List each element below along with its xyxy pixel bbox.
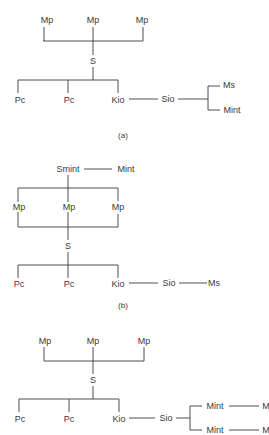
node-mp: Mp	[39, 336, 52, 346]
node-mp: Mp	[87, 15, 100, 25]
node-mp: Mp	[87, 336, 100, 346]
diagram-lines	[0, 0, 269, 435]
node-mp: Mp	[63, 202, 76, 212]
node-mp: Mp	[112, 202, 125, 212]
caption-b: (b)	[118, 301, 128, 310]
caption-a: (a)	[118, 131, 128, 140]
node-pc: Pc	[15, 95, 26, 105]
node-mp: Mp	[13, 202, 26, 212]
node-s: S	[65, 241, 71, 251]
node-mp: Mp	[136, 15, 149, 25]
node-pc: Pc	[64, 95, 75, 105]
node-kio: Kio	[111, 95, 124, 105]
node-mp: Mp	[41, 15, 54, 25]
node-ms: Ms	[208, 278, 220, 288]
node-s: S	[90, 375, 96, 385]
node-sio: Sio	[159, 413, 172, 423]
node-ms: Ms	[223, 80, 235, 90]
node-sio: Sio	[162, 278, 175, 288]
node-kio: Kio	[111, 279, 124, 289]
node-pc: Pc	[64, 414, 75, 424]
node-pc: Pc	[14, 279, 25, 289]
node-sio: Sio	[161, 94, 174, 104]
node-smint: Smint	[56, 164, 79, 174]
node-mint: Mint	[117, 164, 134, 174]
node-mint: Mint	[206, 425, 223, 435]
node-m: M	[262, 425, 269, 435]
node-m: M	[262, 401, 269, 411]
node-s: S	[90, 56, 96, 66]
node-mint: Mint	[223, 105, 240, 115]
node-mp: Mp	[138, 336, 151, 346]
node-kio: Kio	[112, 414, 125, 424]
node-pc: Pc	[15, 414, 26, 424]
node-mint: Mint	[206, 401, 223, 411]
node-pc: Pc	[64, 279, 75, 289]
